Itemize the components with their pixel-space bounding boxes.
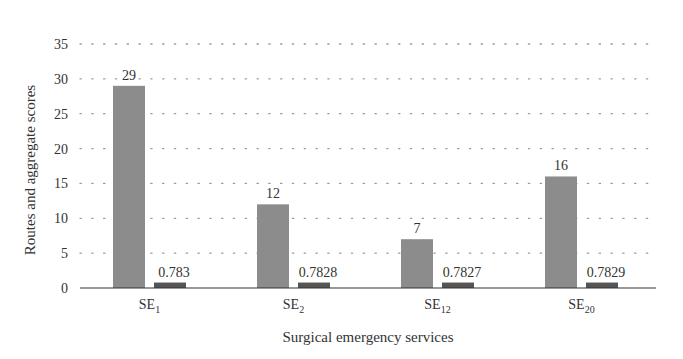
bar-aggregate-scores — [298, 283, 330, 288]
bar-value-label: 0.783 — [158, 265, 190, 280]
bar-value-label: 7 — [414, 221, 421, 236]
y-tick-label: 0 — [61, 281, 68, 296]
bar-routes — [401, 239, 433, 288]
y-tick-label: 15 — [54, 176, 68, 191]
x-tick-label: SE20 — [568, 297, 594, 315]
y-tick-label: 25 — [54, 107, 68, 122]
bar-value-label: 0.7828 — [299, 265, 338, 280]
x-axis-title: Surgical emergency services — [282, 329, 453, 345]
bar-routes — [545, 176, 577, 288]
x-axis-ticks: SE1SE2SE12SE20 — [139, 297, 595, 315]
bars: 290.783120.782870.7827160.7829 — [113, 68, 625, 288]
bar-aggregate-scores — [442, 283, 474, 288]
bar-routes — [257, 204, 289, 288]
bar-value-label: 12 — [266, 186, 280, 201]
bar-value-label: 0.7829 — [587, 265, 626, 280]
bar-value-label: 29 — [122, 68, 136, 83]
bar-value-label: 16 — [554, 158, 568, 173]
bar-value-label: 0.7827 — [443, 265, 482, 280]
y-tick-label: 10 — [54, 211, 68, 226]
y-axis-title: Routes and aggregate scores — [22, 85, 38, 256]
y-tick-label: 35 — [54, 37, 68, 52]
y-axis-ticks: 05101520253035 — [54, 37, 68, 296]
x-tick-label: SE2 — [283, 297, 304, 315]
bar-aggregate-scores — [154, 283, 186, 288]
bar-chart: 05101520253035 290.783120.782870.7827160… — [0, 0, 683, 359]
y-tick-label: 20 — [54, 142, 68, 157]
x-tick-label: SE1 — [139, 297, 160, 315]
bar-routes — [113, 86, 145, 288]
x-tick-label: SE12 — [424, 297, 450, 315]
bar-aggregate-scores — [586, 283, 618, 288]
y-tick-label: 5 — [61, 246, 68, 261]
y-tick-label: 30 — [54, 72, 68, 87]
